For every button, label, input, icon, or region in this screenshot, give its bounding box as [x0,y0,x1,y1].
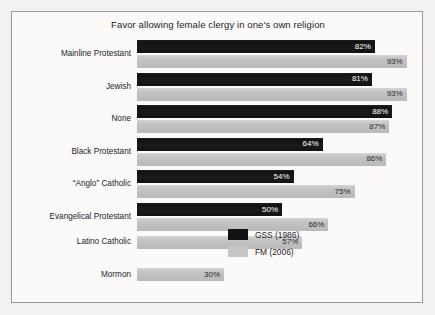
bar-value-label: 30% [204,271,220,279]
legend-item-gss: GSS (1986) [228,226,348,243]
bar-value-label: 93% [387,58,403,66]
legend-item-fm: FM (2006) [228,243,348,260]
chart-frame: Favor allowing female clergy in one's ow… [11,11,423,303]
category-label: Black Protestant [12,147,131,156]
bar-fm: 75% [137,185,355,198]
chart-title: Favor allowing female clergy in one's ow… [12,19,424,30]
bar-fm: 87% [137,120,389,133]
bar-value-label: 50% [262,206,278,214]
bar-gss: 64% [137,138,323,151]
category-label: Latino Catholic [12,237,131,246]
category-label: Mormon [12,270,131,279]
category-label: None [12,114,131,123]
bar-gss: 82% [137,40,375,53]
chart-legend: GSS (1986) FM (2006) [228,226,348,260]
legend-label-gss: GSS (1986) [255,230,299,240]
category-label: “Anglo” Catholic [12,179,131,188]
bar-fm: 93% [137,55,407,68]
bar-gss: 81% [137,73,372,86]
bar-value-label: 88% [372,108,388,116]
bar-value-label: 54% [274,173,290,181]
bar-fm: 30% [137,268,224,281]
category-label: Evangelical Protestant [12,212,131,221]
bar-value-label: 82% [355,43,371,51]
bar-value-label: 64% [303,140,319,148]
legend-swatch-fm [228,246,248,257]
bar-value-label: 75% [334,188,350,196]
bar-fm: 86% [137,153,386,166]
legend-label-fm: FM (2006) [255,247,294,257]
chart-plot-area: Mainline Protestant82%93%Jewish81%93%Non… [12,34,424,302]
scanned-page-background: Favor allowing female clergy in one's ow… [0,0,435,315]
bar-value-label: 86% [366,155,382,163]
legend-swatch-gss [228,229,248,240]
bar-value-label: 93% [387,90,403,98]
bar-gss: 50% [137,203,282,216]
category-label: Jewish [12,82,131,91]
bar-gss: 54% [137,170,294,183]
bar-value-label: 81% [352,75,368,83]
bar-value-label: 87% [369,123,385,131]
category-label: Mainline Protestant [12,49,131,58]
bar-fm: 93% [137,88,407,101]
bar-gss: 88% [137,105,392,118]
